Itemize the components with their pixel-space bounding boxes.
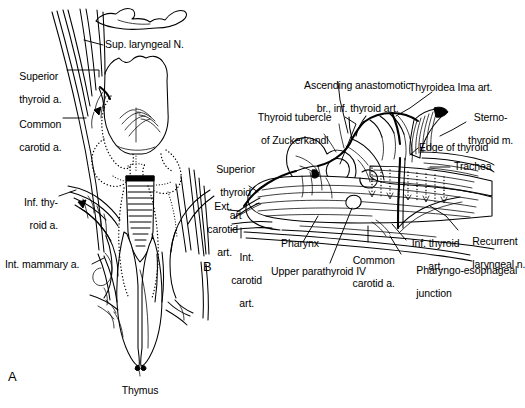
label-common-carotid-a: Common carotid a. — [8, 107, 61, 165]
label-common-carotid-a-b: Common carotid a. — [334, 243, 402, 301]
label-superior-thyroid-a-line2: thyroid a. — [19, 93, 61, 105]
label-edge-of-thyroid: Edge of thyroid — [419, 142, 488, 154]
label-inf-thyroid-a-line2: roid a. — [30, 219, 58, 231]
label-inf-thyroid-a: Inf. thy- roid a. — [0, 185, 58, 243]
label-trachea: Trachea — [454, 161, 491, 173]
label-thyroid-tubercle-line1: Thyroid tubercle — [258, 111, 332, 123]
label-common-carotid-a-line1: Common — [19, 118, 61, 130]
label-ascending-anastomotic-line1: Ascending anastomotic — [304, 79, 410, 91]
label-sternothyroid-m-line1: Sterno- — [474, 111, 508, 123]
label-int-mammary-a: Int. mammary a. — [5, 259, 79, 271]
label-pharynx: Pharynx — [281, 238, 319, 250]
label-inf-thyroid-a-line1: Inf. thy- — [24, 196, 58, 208]
panel-a-drawing — [52, 9, 214, 376]
label-common-carotid-a-line2: carotid a. — [19, 141, 61, 153]
upper-parathyroid-gland — [346, 195, 361, 209]
label-int-carotid-art-line2: carotid — [231, 274, 262, 286]
label-pharyngo-esophageal-line2: junction — [416, 287, 451, 299]
label-recurrent-laryngeal-n: Recurrent laryngeal n. — [461, 224, 525, 282]
label-recurrent-laryngeal-n-line2: laryngeal n. — [472, 258, 525, 270]
label-ext-carotid-art-line2: carotid — [207, 223, 238, 235]
inferior-thyroid-artery-a — [68, 186, 120, 236]
internal-mammary-artery-a — [75, 205, 123, 337]
label-common-carotid-a-b-line1: Common — [353, 254, 395, 266]
label-thymus: Thymus — [108, 385, 172, 397]
leader-int-mammary-a — [92, 258, 104, 264]
label-thyroid-tubercle-line2: of Zuckerkandl — [261, 134, 328, 146]
label-int-carotid-art-line3: art. — [239, 297, 254, 309]
panel-letter-b: B — [203, 259, 212, 274]
label-sup-laryngeal-n: Sup. laryngeal N. — [105, 39, 184, 51]
label-thyroidea-ima-art: Thyroidea Ima art. — [409, 82, 492, 94]
label-thyroid-tubercle-zuckerkandl: Thyroid tubercle of Zuckerkandl — [233, 100, 345, 158]
label-superior-thyroid-art-line1: Superior — [216, 163, 255, 175]
label-recurrent-laryngeal-n-line1: Recurrent — [472, 235, 517, 247]
label-int-carotid-art: Int. carotid art. — [218, 240, 264, 321]
label-common-carotid-a-b-line2: carotid a. — [353, 277, 395, 289]
panel-letter-a: A — [8, 369, 17, 384]
hyoid-bone — [96, 9, 186, 30]
label-superior-thyroid-a-line1: Superior — [19, 70, 58, 82]
label-inf-thyroid-art-line1: Inf. thyroid — [412, 237, 460, 249]
thyroid-cartilage — [104, 56, 168, 154]
label-int-carotid-art-line1: Int. — [240, 251, 254, 263]
label-ext-carotid-art-line1: Ext. — [214, 200, 232, 212]
